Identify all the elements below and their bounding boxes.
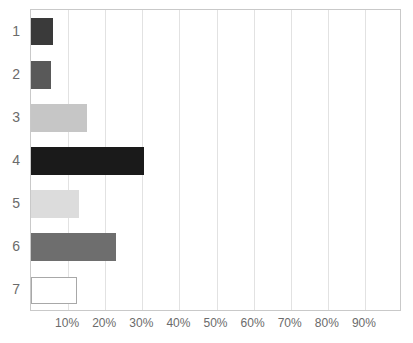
bars-layer <box>31 10 400 310</box>
bar-row <box>31 104 400 132</box>
x-tick-label-60%: 60% <box>241 316 265 330</box>
y-tick-label-4: 4 <box>12 153 20 167</box>
bar-row <box>31 147 400 175</box>
bar-1[interactable] <box>31 18 53 46</box>
bar-row <box>31 61 400 89</box>
x-tick-label-30%: 30% <box>129 316 153 330</box>
y-tick-label-3: 3 <box>12 110 20 124</box>
x-tick-label-90%: 90% <box>352 316 376 330</box>
bar-4[interactable] <box>31 147 144 175</box>
y-tick-label-7: 7 <box>12 282 20 296</box>
plot-area <box>30 9 401 311</box>
bar-6[interactable] <box>31 233 116 261</box>
bar-7[interactable] <box>31 277 77 305</box>
x-tick-label-80%: 80% <box>315 316 339 330</box>
y-tick-label-6: 6 <box>12 239 20 253</box>
bar-row <box>31 190 400 218</box>
x-axis: 10%20%30%40%50%60%70%80%90% <box>30 316 401 336</box>
bar-5[interactable] <box>31 190 79 218</box>
bar-2[interactable] <box>31 61 51 89</box>
y-tick-label-1: 1 <box>12 24 20 38</box>
x-tick-label-10%: 10% <box>55 316 79 330</box>
x-tick-label-40%: 40% <box>166 316 190 330</box>
bar-row <box>31 277 400 305</box>
y-tick-label-2: 2 <box>12 67 20 81</box>
x-tick-label-50%: 50% <box>203 316 227 330</box>
bar-3[interactable] <box>31 104 87 132</box>
bar-row <box>31 18 400 46</box>
x-tick-label-70%: 70% <box>278 316 302 330</box>
y-axis: 1 2 3 4 5 6 7 <box>0 9 28 311</box>
y-tick-label-5: 5 <box>12 196 20 210</box>
bar-row <box>31 233 400 261</box>
x-tick-label-20%: 20% <box>92 316 116 330</box>
bar-chart: 1 2 3 4 5 6 7 10%20%30%40%50%60%70%80%90… <box>0 0 413 343</box>
